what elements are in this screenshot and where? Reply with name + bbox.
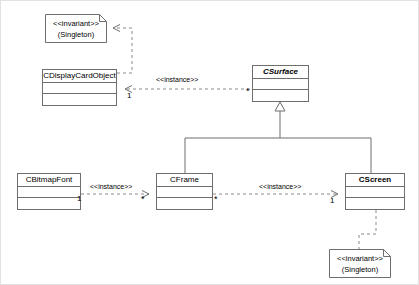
class-name-cscreen: CScreen — [346, 174, 404, 187]
note-invariant-singleton-display[interactable]: <<invariant>> (Singleton) — [45, 14, 107, 43]
class-attributes-csurface — [253, 79, 308, 90]
edge-label-instance-bitmapfont-frame: <<instance>> — [90, 183, 132, 190]
multiplicity-frame-many: * — [141, 197, 145, 202]
class-name-cbitmapfont: CBitmapFont — [18, 174, 80, 187]
note-line2-display: (Singleton) — [45, 29, 107, 40]
class-attributes-cscreen — [346, 187, 404, 198]
note-text-screen: <<invariant>> (Singleton) — [329, 249, 391, 275]
class-operations-cframe — [157, 198, 212, 209]
edge-label-instance-frame-screen: <<instance>> — [259, 183, 301, 190]
class-name-cdisplaycardobject: CDisplayCardObject — [43, 70, 116, 83]
note-line1-screen: <<invariant>> — [329, 253, 391, 264]
note-invariant-singleton-screen[interactable]: <<invariant>> (Singleton) — [329, 249, 391, 278]
multiplicity-display-one: 1 — [127, 91, 131, 100]
note-connector-display — [113, 28, 132, 73]
class-attributes-cdisplaycardobject — [43, 83, 116, 94]
uml-diagram-canvas: CDisplayCardObject CSurface CBitmapFont … — [0, 0, 419, 285]
class-attributes-cframe — [157, 187, 212, 198]
class-box-csurface[interactable]: CSurface — [252, 65, 309, 102]
note-line1-display: <<invariant>> — [45, 18, 107, 29]
multiplicity-surface-many: * — [246, 89, 250, 94]
class-operations-cbitmapfont — [18, 198, 80, 209]
diagram-edges — [1, 1, 419, 285]
class-operations-cdisplaycardobject — [43, 94, 116, 105]
class-name-cframe: CFrame — [157, 174, 212, 187]
class-box-cdisplaycardobject[interactable]: CDisplayCardObject — [42, 69, 117, 106]
note-connector-screen — [359, 210, 376, 249]
generalization-to-csurface — [185, 102, 371, 173]
note-text-display: <<invariant>> (Singleton) — [45, 14, 107, 40]
class-operations-csurface — [253, 90, 308, 101]
class-box-cscreen[interactable]: CScreen — [345, 173, 405, 210]
multiplicity-screen-one: 1 — [330, 196, 334, 205]
class-box-cframe[interactable]: CFrame — [156, 173, 213, 210]
multiplicity-bitmapfont-one: 1 — [77, 194, 81, 203]
class-box-cbitmapfont[interactable]: CBitmapFont — [17, 173, 81, 210]
class-attributes-cbitmapfont — [18, 187, 80, 198]
class-name-csurface: CSurface — [253, 66, 308, 79]
note-line2-screen: (Singleton) — [329, 264, 391, 275]
multiplicity-frame-source-many: * — [214, 197, 218, 202]
edge-label-instance-surface-display: <<instance>> — [156, 76, 198, 83]
class-operations-cscreen — [346, 198, 404, 209]
